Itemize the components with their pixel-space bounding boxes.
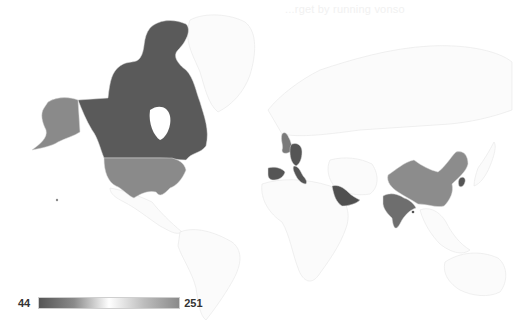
legend-gradient-bar bbox=[38, 297, 180, 309]
region-spain[interactable] bbox=[268, 167, 285, 180]
region-australia[interactable] bbox=[444, 253, 505, 296]
region-europe-russia[interactable] bbox=[268, 46, 512, 136]
region-sri-lanka[interactable] bbox=[412, 211, 415, 214]
region-southeast-asia[interactable] bbox=[420, 209, 470, 253]
region-germany[interactable] bbox=[290, 143, 302, 166]
region-south-korea[interactable] bbox=[458, 177, 465, 187]
legend-max-label: 251 bbox=[184, 297, 202, 309]
legend-min-label: 44 bbox=[18, 297, 30, 309]
region-alaska[interactable] bbox=[32, 98, 80, 150]
region-mexico-central-america[interactable] bbox=[110, 188, 182, 233]
region-japan[interactable] bbox=[474, 142, 495, 186]
region-hawaii[interactable] bbox=[56, 199, 58, 201]
region-canada[interactable] bbox=[78, 21, 207, 160]
world-map bbox=[0, 0, 517, 329]
color-legend: 44 251 bbox=[18, 295, 203, 311]
